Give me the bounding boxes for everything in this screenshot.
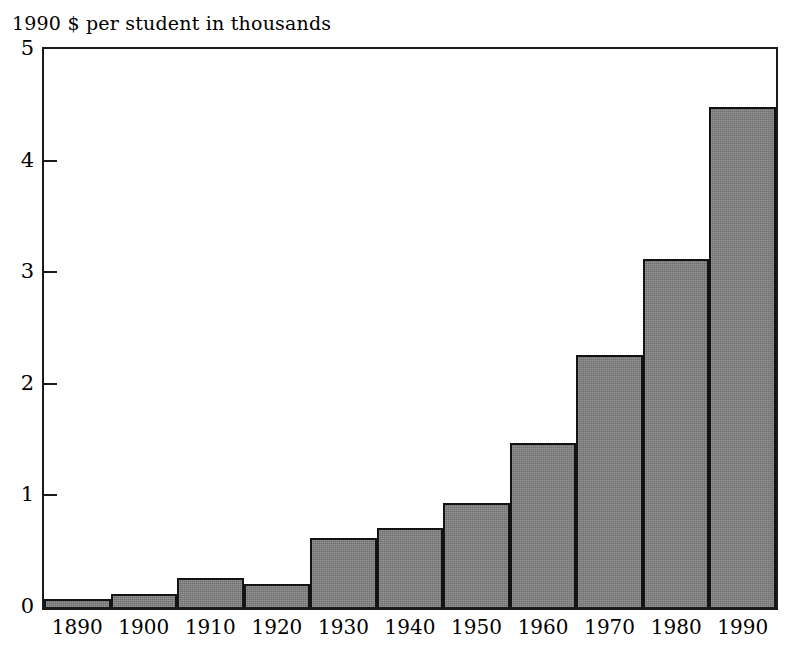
bar-1930 bbox=[310, 538, 377, 607]
chart-figure: 1990 $ per student in thousands 012345 1… bbox=[0, 0, 804, 645]
bar-1940 bbox=[377, 528, 444, 607]
y-tick-left-1 bbox=[44, 494, 57, 496]
bar-1900 bbox=[111, 594, 178, 607]
y-tick-label-4: 4 bbox=[4, 150, 34, 171]
x-tick-label-1930: 1930 bbox=[310, 616, 377, 638]
bar-1950 bbox=[443, 503, 510, 607]
bar-1890 bbox=[44, 599, 111, 607]
chart-title: 1990 $ per student in thousands bbox=[12, 12, 331, 34]
x-tick-label-1990: 1990 bbox=[709, 616, 776, 638]
x-tick-label-1900: 1900 bbox=[111, 616, 178, 638]
y-tick-left-2 bbox=[44, 383, 57, 385]
y-tick-left-4 bbox=[44, 160, 57, 162]
y-tick-label-5: 5 bbox=[4, 38, 34, 59]
x-tick-label-1960: 1960 bbox=[510, 616, 577, 638]
bar-1980 bbox=[643, 259, 710, 607]
y-tick-label-3: 3 bbox=[4, 261, 34, 282]
x-tick-label-1970: 1970 bbox=[576, 616, 643, 638]
y-tick-label-2: 2 bbox=[4, 373, 34, 394]
x-tick-label-1980: 1980 bbox=[643, 616, 710, 638]
bar-1990 bbox=[709, 107, 776, 607]
plot-area bbox=[42, 47, 778, 610]
x-tick-label-1950: 1950 bbox=[443, 616, 510, 638]
bar-1920 bbox=[244, 584, 311, 607]
plot-inner bbox=[44, 49, 776, 607]
x-tick-label-1910: 1910 bbox=[177, 616, 244, 638]
bar-1960 bbox=[510, 443, 577, 607]
y-tick-label-1: 1 bbox=[4, 484, 34, 505]
y-tick-label-0: 0 bbox=[4, 596, 34, 617]
bar-1970 bbox=[576, 355, 643, 607]
x-tick-label-1940: 1940 bbox=[377, 616, 444, 638]
x-tick-label-1920: 1920 bbox=[244, 616, 311, 638]
x-tick-label-1890: 1890 bbox=[44, 616, 111, 638]
y-tick-left-3 bbox=[44, 271, 57, 273]
bar-1910 bbox=[177, 578, 244, 607]
